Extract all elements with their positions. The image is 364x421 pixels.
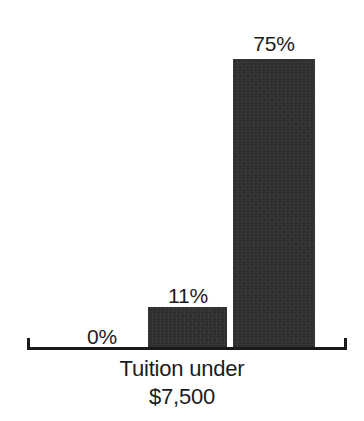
axis-right-end-cap: [344, 338, 347, 349]
value-label-75: 75%: [253, 32, 294, 56]
value-label-0: 0%: [87, 325, 117, 349]
bar-11-percent: [148, 307, 227, 348]
x-axis-label-line-2: $7,500: [0, 383, 364, 411]
x-axis-label: Tuition under $7,500: [0, 355, 364, 411]
x-axis-baseline: [27, 347, 347, 350]
x-axis-label-line-1: Tuition under: [0, 355, 364, 383]
bar-chart: 0% 11% 75% Tuition under $7,500: [0, 0, 364, 421]
axis-left-end-cap: [27, 338, 30, 349]
bar-75-percent: [233, 59, 315, 348]
value-label-11: 11%: [168, 284, 208, 308]
